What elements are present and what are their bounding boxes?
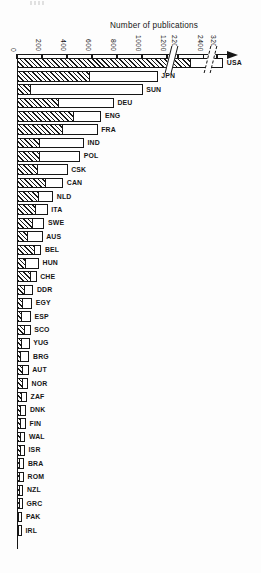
bar-open-segment xyxy=(32,218,45,229)
country-label: JPN xyxy=(161,72,175,79)
country-label: NLD xyxy=(57,193,72,200)
bar-hatched-segment xyxy=(17,191,39,202)
country-label: ITA xyxy=(51,206,62,213)
country-label: CHE xyxy=(40,273,55,280)
country-label: WAL xyxy=(29,433,45,440)
country-label: AUT xyxy=(32,366,47,373)
country-label: NZL xyxy=(27,486,41,493)
bar-hatched-segment xyxy=(17,71,91,82)
country-label: NOR xyxy=(32,380,48,387)
bar-open-segment xyxy=(20,432,25,443)
tick-label: 800 xyxy=(109,39,118,52)
country-label: BRG xyxy=(33,353,49,360)
country-label: FRA xyxy=(101,126,116,133)
country-label: YUG xyxy=(33,339,49,346)
country-label: ZAF xyxy=(31,393,45,400)
country-label: POL xyxy=(84,152,99,159)
bar-hatched-segment xyxy=(17,151,41,162)
country-label: DNK xyxy=(30,406,46,413)
x-axis-arrowhead-icon xyxy=(227,51,238,59)
bar-hatched-segment xyxy=(17,245,36,256)
bar-hatched-segment xyxy=(17,218,33,229)
bar-open-segment xyxy=(73,111,102,122)
bar-hatched-segment xyxy=(17,204,36,215)
bar-hatched-segment xyxy=(17,58,191,69)
country-label: ENG xyxy=(105,112,121,119)
bar-open-segment xyxy=(24,285,33,296)
bar-open-segment xyxy=(19,458,24,469)
country-label: CAN xyxy=(67,179,83,186)
x-axis-line xyxy=(17,54,228,55)
bar-hatched-segment xyxy=(17,164,38,175)
bar-open-segment xyxy=(21,392,27,403)
bar-hatched-segment xyxy=(17,98,60,109)
bar-open-segment xyxy=(19,472,24,483)
country-label: ISR xyxy=(29,446,41,453)
bar-open-segment xyxy=(58,98,114,109)
bar-open-segment xyxy=(22,365,29,376)
country-label: GRC xyxy=(27,500,43,507)
bar-open-segment xyxy=(24,325,31,336)
bar-open-segment xyxy=(22,378,28,389)
country-label: USA xyxy=(227,59,242,66)
country-label: DEU xyxy=(117,99,132,106)
tick-label: 0 xyxy=(9,48,18,52)
bar-hatched-segment xyxy=(17,178,46,189)
tick-label: 400 xyxy=(59,39,68,52)
bar-open-segment xyxy=(21,311,31,322)
country-label: CSK xyxy=(71,166,86,173)
tick-label: 200 xyxy=(34,39,43,52)
bar-open-segment xyxy=(18,525,22,536)
bar-open-segment xyxy=(20,405,26,416)
bar-open-segment xyxy=(45,178,63,189)
bar-open-segment xyxy=(89,71,157,82)
bar-open-segment xyxy=(27,231,43,242)
bar-open-segment xyxy=(20,351,30,362)
bar-open-segment xyxy=(35,204,48,215)
bar-open-segment xyxy=(20,418,26,429)
country-label: FIN xyxy=(30,420,42,427)
bar-open-segment xyxy=(22,298,32,309)
bar-open-segment xyxy=(19,498,23,509)
tick-label: 600 xyxy=(84,39,93,52)
bar-open-segment xyxy=(37,164,68,175)
country-label: IRL xyxy=(26,527,38,534)
bar-open-segment xyxy=(20,445,25,456)
country-label: SUN xyxy=(146,86,161,93)
bar-hatched-segment xyxy=(17,111,74,122)
bar-open-segment xyxy=(19,485,24,496)
bar-open-segment xyxy=(30,84,143,95)
country-label: BRA xyxy=(28,460,44,467)
bar-open-segment xyxy=(39,151,80,162)
figure-canvas: Number of publications 02004006008001000… xyxy=(0,0,261,573)
tick-labels-layer: 020040060080010001200220024003200 xyxy=(0,0,261,53)
country-label: HUN xyxy=(43,259,59,266)
bar-open-segment xyxy=(21,338,29,349)
tick-label: 2400 xyxy=(196,35,205,52)
country-label: DDR xyxy=(37,286,53,293)
tick-label: 1000 xyxy=(134,35,143,52)
bar-open-segment xyxy=(62,124,98,135)
country-label: ESP xyxy=(35,313,49,320)
country-label: SWE xyxy=(48,219,64,226)
tick-label: 1200 xyxy=(159,35,168,52)
bar-hatched-segment xyxy=(17,138,40,149)
country-label: PAK xyxy=(26,513,41,520)
country-label: EGY xyxy=(36,299,51,306)
bar-open-segment xyxy=(18,512,22,523)
bar-hatched-segment xyxy=(17,124,63,135)
country-label: BEL xyxy=(45,246,59,253)
country-label: SCO xyxy=(34,326,50,333)
bar-open-segment xyxy=(38,191,54,202)
bar-open-segment xyxy=(30,271,37,282)
bar-open-segment xyxy=(34,245,41,256)
bar-open-segment xyxy=(39,138,84,149)
country-label: AUS xyxy=(46,233,61,240)
country-label: ROM xyxy=(28,473,45,480)
country-label: IND xyxy=(87,139,99,146)
bar-open-segment xyxy=(25,258,39,269)
